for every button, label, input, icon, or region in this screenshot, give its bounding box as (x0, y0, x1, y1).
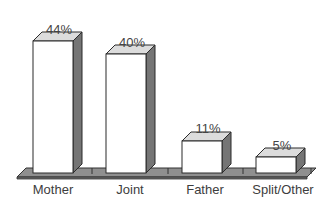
value-label-mother: 44% (33, 22, 85, 37)
category-label-joint: Joint (95, 182, 165, 197)
bar-joint[interactable] (106, 45, 155, 173)
value-label-split-other: 5% (256, 138, 308, 153)
bar-chart: 44% 40% 11% 5% Mother Joint Father Split… (0, 0, 332, 209)
value-label-father: 11% (182, 121, 234, 136)
bar-father[interactable] (182, 132, 231, 173)
category-label-father: Father (170, 182, 240, 197)
value-label-joint: 40% (106, 35, 158, 50)
category-label-split-other: Split/Other (240, 182, 326, 197)
category-label-mother: Mother (18, 182, 88, 197)
bar-mother[interactable] (33, 32, 82, 173)
